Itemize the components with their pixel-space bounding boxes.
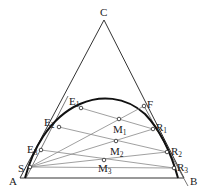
- point-r1: [151, 127, 155, 131]
- ternary-diagram: C A B S F E1 E2 E3 R1 R2 R3 M1 M2 M3: [0, 0, 209, 192]
- label-b: B: [190, 175, 197, 187]
- point-e2: [57, 125, 61, 129]
- point-r3: [172, 166, 176, 170]
- label-r2: R2: [171, 145, 182, 159]
- label-m1: M1: [113, 123, 127, 137]
- label-s: S: [18, 162, 24, 174]
- label-m3: M3: [98, 162, 112, 176]
- label-c: C: [100, 6, 107, 18]
- label-e3: E3: [27, 143, 38, 157]
- label-e2: E2: [44, 116, 55, 130]
- label-m2: M2: [110, 145, 124, 159]
- point-s: [28, 165, 32, 169]
- label-e1: E1: [69, 95, 80, 109]
- point-e1: [79, 106, 83, 110]
- label-r3: R3: [177, 161, 188, 175]
- point-m1: [117, 117, 121, 121]
- label-r1: R1: [156, 121, 167, 135]
- point-r2: [165, 150, 169, 154]
- point-f: [142, 104, 146, 108]
- point-e3: [39, 148, 43, 152]
- label-a: A: [9, 175, 17, 187]
- point-m2: [114, 139, 118, 143]
- label-f: F: [147, 98, 153, 110]
